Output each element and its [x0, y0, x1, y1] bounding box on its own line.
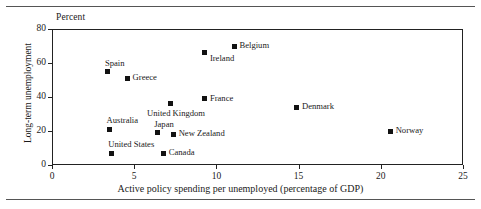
- y-tick-label: 80: [20, 24, 46, 34]
- data-point-label: Denmark: [302, 102, 334, 111]
- data-point-label: New Zealand: [179, 129, 225, 138]
- y-tick-label: 40: [20, 92, 46, 102]
- data-point-label: United States: [108, 140, 154, 149]
- data-point-marker: [155, 130, 160, 135]
- x-tick-label: 0: [37, 172, 67, 182]
- x-tick-mark: [381, 165, 382, 169]
- data-point-label: Ireland: [210, 54, 234, 63]
- x-tick-label: 25: [448, 172, 478, 182]
- data-point-marker: [161, 151, 166, 156]
- x-tick-mark: [463, 165, 464, 169]
- data-point-label: United Kingdom: [147, 109, 205, 118]
- x-tick-mark: [216, 165, 217, 169]
- data-point-label: Greece: [133, 73, 157, 82]
- x-tick-label: 15: [284, 172, 314, 182]
- data-point-marker: [294, 105, 299, 110]
- y-tick-mark: [48, 29, 52, 30]
- x-tick-mark: [299, 165, 300, 169]
- data-point-marker: [168, 101, 173, 106]
- x-axis-title: Active policy spending per unemployed (p…: [0, 183, 481, 194]
- x-tick-label: 5: [119, 172, 149, 182]
- data-point-marker: [107, 127, 112, 132]
- figure-bottom-rule: [6, 199, 475, 200]
- data-point-label: Belgium: [239, 41, 269, 50]
- x-tick-mark: [52, 165, 53, 169]
- data-point-label: Spain: [105, 59, 125, 68]
- data-point-marker: [202, 50, 207, 55]
- x-tick-label: 10: [201, 172, 231, 182]
- y-tick-mark: [48, 63, 52, 64]
- data-point-label: Canada: [169, 148, 195, 157]
- y-axis-unit-caption: Percent: [56, 12, 85, 22]
- data-point-marker: [202, 96, 207, 101]
- data-point-marker: [125, 76, 130, 81]
- data-point-label: France: [210, 94, 233, 103]
- y-tick-mark: [48, 131, 52, 132]
- y-tick-label: 20: [20, 126, 46, 136]
- data-point-marker: [388, 129, 393, 134]
- x-tick-label: 20: [366, 172, 396, 182]
- data-point-marker: [109, 151, 114, 156]
- data-point-label: Japan: [154, 120, 174, 129]
- figure-top-rule: [6, 6, 475, 7]
- data-point-marker: [105, 69, 110, 74]
- y-tick-mark: [48, 97, 52, 98]
- data-point-label: Norway: [396, 126, 424, 135]
- data-point-marker: [171, 132, 176, 137]
- data-point-label: Australia: [107, 116, 139, 125]
- y-tick-label: 60: [20, 58, 46, 68]
- data-point-marker: [232, 44, 237, 49]
- y-tick-label: 0: [20, 160, 46, 170]
- x-tick-mark: [134, 165, 135, 169]
- figure-scatter-plot: Percent Long-term unemployment 020406080…: [0, 0, 481, 209]
